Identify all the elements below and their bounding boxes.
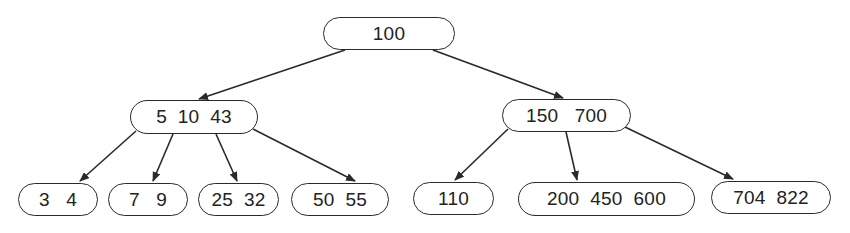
leaf-node-2: 7 9 [108,183,188,216]
edge-root-to-internal-right [433,50,563,98]
edge-internal-left-to-leaf-3 [216,134,237,181]
edge-internal-right-to-leaf-7 [625,127,733,179]
internal-node-left: 5 10 43 [130,100,258,134]
edge-internal-left-to-leaf-4 [253,129,355,181]
leaf-node-3: 25 32 [198,183,279,216]
internal-node-right: 150 700 [502,99,631,132]
edge-internal-right-to-leaf-5 [455,129,508,180]
leaf-node-5: 110 [413,182,494,215]
edge-root-to-internal-left [199,50,345,99]
leaf-node-1: 3 4 [18,183,98,216]
leaf-node-4: 50 55 [291,183,389,216]
edge-internal-left-to-leaf-1 [80,131,136,181]
edge-internal-left-to-leaf-2 [153,134,173,181]
root-node: 100 [323,17,455,50]
leaf-node-6: 200 450 600 [518,182,695,216]
b-tree-diagram: 100 5 10 43 150 700 3 4 7 9 25 32 50 55 … [0,0,850,233]
leaf-node-7: 704 822 [711,181,831,214]
edge-internal-right-to-leaf-6 [566,132,577,180]
